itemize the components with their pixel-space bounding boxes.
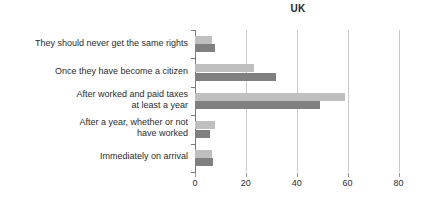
y-axis-tick: [191, 144, 195, 145]
x-axis-tick-label: 60: [328, 178, 368, 188]
bar-series-light: [195, 93, 345, 101]
x-axis-tick: [297, 173, 298, 177]
y-axis-tick: [191, 30, 195, 31]
bar-series-dark: [195, 73, 276, 81]
category-label: Immediately on arrival: [0, 151, 188, 162]
bar-series-dark: [195, 158, 213, 166]
x-axis-tick-label: 80: [379, 178, 419, 188]
bar-series-light: [195, 36, 212, 44]
x-axis-tick-label: 20: [226, 178, 266, 188]
x-axis-tick-label: 40: [277, 178, 317, 188]
x-axis-tick: [399, 173, 400, 177]
category-label: Once they have become a citizen: [0, 66, 188, 77]
x-axis-tick: [246, 173, 247, 177]
bar-chart: UK 020406080They should never get the sa…: [0, 0, 422, 198]
chart-title: UK: [195, 3, 401, 14]
category-label: After a year, whether or not have worked: [0, 117, 188, 139]
bar-series-light: [195, 64, 254, 72]
bar-series-dark: [195, 130, 210, 138]
y-axis-tick: [191, 172, 195, 173]
gridline: [348, 30, 349, 172]
bar-series-dark: [195, 101, 320, 109]
y-axis-tick: [191, 87, 195, 88]
plot-area: [195, 30, 401, 172]
bar-series-light: [195, 121, 215, 129]
y-axis-tick: [191, 115, 195, 116]
y-axis-tick: [191, 58, 195, 59]
category-label: They should never get the same rights: [0, 38, 188, 49]
category-label: After worked and paid taxes at least a y…: [0, 89, 188, 111]
bar-series-dark: [195, 44, 215, 52]
x-axis-tick: [195, 173, 196, 177]
x-axis-tick: [348, 173, 349, 177]
x-axis-tick-label: 0: [175, 178, 215, 188]
bar-series-light: [195, 150, 212, 158]
gridline: [399, 30, 400, 172]
